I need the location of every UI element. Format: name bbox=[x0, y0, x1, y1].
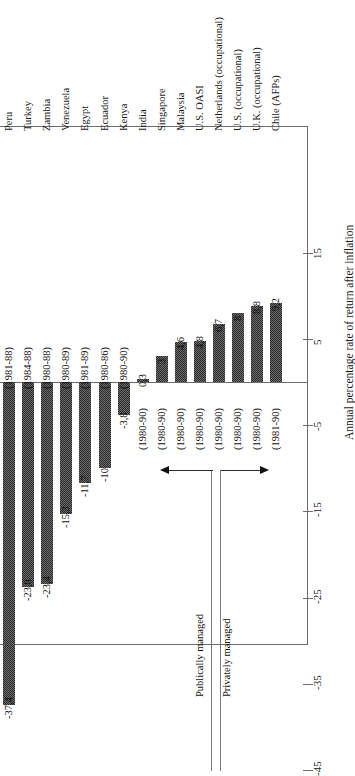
bar-value-label: -10 bbox=[99, 468, 110, 482]
category-label: Turkey bbox=[22, 101, 33, 131]
bar-period-label: (1980-90) bbox=[175, 408, 186, 450]
bar-period-label: (1980-90) bbox=[137, 408, 148, 450]
bar bbox=[213, 324, 225, 382]
bar-value-label: -23,4 bbox=[41, 576, 52, 598]
bar-period-label: (1980-89) bbox=[60, 347, 71, 389]
value-axis-line bbox=[307, 126, 308, 645]
bar-period-label: (1980-90) bbox=[156, 408, 167, 450]
category-label: Kenya bbox=[118, 104, 129, 131]
bar bbox=[22, 382, 34, 587]
bar-value-label: 0,3 bbox=[137, 374, 148, 387]
bar-value-label: -3,8 bbox=[118, 412, 129, 429]
bar-period-label: (1981-89) bbox=[79, 347, 90, 389]
value-axis-tick-label: 15 bbox=[312, 225, 323, 259]
bar-value-label: -37,4 bbox=[3, 697, 14, 719]
value-axis-tick-label: -35 bbox=[312, 656, 323, 690]
group-arrow-head-privately bbox=[260, 466, 269, 474]
bar-period-label: (1981-90) bbox=[270, 408, 281, 450]
bar-value-label: -23,8 bbox=[22, 580, 33, 602]
bar bbox=[41, 382, 53, 584]
bar-value-label: 6,7 bbox=[213, 319, 224, 332]
value-axis-tick-label: -15 bbox=[312, 483, 323, 517]
group-arrow-head-publically bbox=[160, 466, 169, 474]
bar-value-label: 8 bbox=[232, 316, 243, 321]
category-label: Chile (AFPs) bbox=[270, 75, 281, 131]
bar bbox=[232, 313, 244, 382]
category-label: U.K. (occupational) bbox=[251, 47, 262, 131]
bar-value-label: 4,8 bbox=[194, 335, 205, 348]
bar-value-label: -11,7 bbox=[79, 475, 90, 496]
bar-value-label: 4,6 bbox=[175, 337, 186, 350]
category-label: U.S. (occupational) bbox=[232, 49, 243, 131]
category-label: Ecuador bbox=[99, 96, 110, 131]
bar-period-label: (1980-88) bbox=[41, 347, 52, 389]
category-label: Singapore bbox=[156, 88, 167, 131]
bar-period-label: (1980-90) bbox=[118, 347, 129, 389]
category-label: Netherlands (occupational) bbox=[213, 17, 224, 131]
bar bbox=[3, 382, 15, 705]
group-divider-line-left bbox=[211, 470, 212, 771]
bar-period-label: (1980-86) bbox=[99, 347, 110, 389]
category-label: Venezuela bbox=[60, 88, 71, 131]
bar-period-label: (1980-90) bbox=[251, 408, 262, 450]
category-label: India bbox=[137, 109, 148, 131]
plot-frame: 155-5-15-25-35-45 -37,4-23,8-23,4-15,3-1… bbox=[0, 126, 308, 645]
bar-period-label: (1981-88) bbox=[3, 347, 14, 389]
bar-period-label: (1984-88) bbox=[22, 347, 33, 389]
category-label: Peru bbox=[3, 112, 14, 131]
value-axis-title: Annual percentage rate of return after i… bbox=[343, 225, 355, 440]
bar-value-label: 9,2 bbox=[270, 297, 281, 310]
bar bbox=[251, 306, 263, 382]
group-arrow-line-publically bbox=[168, 470, 213, 471]
group-label-publically-managed: Publically managed bbox=[194, 614, 205, 697]
category-label: Zambia bbox=[41, 99, 52, 131]
value-axis-tick-label: 5 bbox=[312, 311, 323, 345]
group-arrow-line-privately bbox=[221, 470, 261, 471]
bar-period-label: (1980-90) bbox=[232, 408, 243, 450]
bar bbox=[60, 382, 72, 514]
category-label: Egypt bbox=[79, 106, 90, 131]
value-axis-tick-label: -5 bbox=[312, 397, 323, 431]
value-axis-tick-label: -25 bbox=[312, 570, 323, 604]
category-label: U.S. OASI bbox=[194, 85, 205, 131]
bar bbox=[270, 303, 282, 382]
bar bbox=[99, 382, 111, 468]
bar-period-label: (1980-90) bbox=[213, 408, 224, 450]
bar-value-label: 8,8 bbox=[251, 301, 262, 314]
category-label: Malaysia bbox=[175, 93, 186, 132]
value-axis-tick-label: -45 bbox=[312, 742, 323, 776]
bar-period-label: (1980-90) bbox=[194, 408, 205, 450]
bar bbox=[79, 382, 91, 483]
bar-value-label: -15,3 bbox=[60, 506, 71, 528]
bar-value-label: 3 bbox=[156, 359, 167, 364]
plot-frame-bottom-edge bbox=[0, 644, 308, 645]
group-label-privately-managed: Privately managed bbox=[221, 619, 232, 697]
